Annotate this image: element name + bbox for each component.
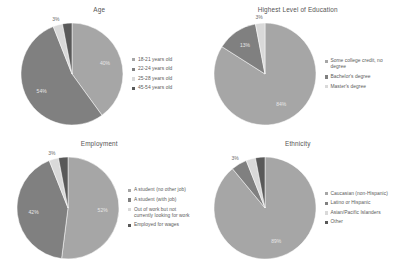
legend-item-label: Bachelor's degree bbox=[330, 74, 370, 80]
legend-swatch-icon bbox=[325, 85, 328, 88]
pie-canvas-education bbox=[213, 22, 317, 126]
chart-panel-education: Highest Level of Education 84%13%3% Some… bbox=[199, 0, 397, 134]
legend-item[interactable]: Asian/Pacific Islanders bbox=[325, 210, 394, 216]
legend-item[interactable]: 22-24 years old bbox=[132, 66, 195, 72]
chart-title-age: Age bbox=[0, 6, 199, 13]
legend-item-label: 45-54 years old bbox=[138, 85, 172, 91]
legend-item-label: Caucasian (non-Hispanic) bbox=[330, 191, 387, 197]
legend-item[interactable]: Caucasian (non-Hispanic) bbox=[325, 191, 394, 197]
chart-title-ethnicity: Ethnicity bbox=[199, 140, 397, 147]
legend-swatch-icon bbox=[325, 60, 328, 63]
legend-item[interactable]: Latino or Hispanic bbox=[325, 200, 394, 206]
legend-item-label: Latino or Hispanic bbox=[330, 200, 370, 206]
legend-swatch-icon bbox=[132, 58, 135, 61]
chart-body-age: 40%54%3% 18-21 years old 22-24 years old… bbox=[0, 16, 199, 132]
legend-age: 18-21 years old 22-24 years old 25-28 ye… bbox=[124, 57, 199, 92]
legend-item[interactable]: 18-21 years old bbox=[132, 57, 195, 63]
chart-panel-age: Age 40%54%3% 18-21 years old 22-24 years… bbox=[0, 0, 199, 134]
legend-swatch-icon bbox=[325, 75, 328, 78]
legend-item[interactable]: Other bbox=[325, 219, 394, 225]
legend-item[interactable]: A student (no other job) bbox=[128, 187, 195, 193]
pie-slice-label: 3% bbox=[52, 16, 59, 22]
legend-item-label: 22-24 years old bbox=[138, 66, 172, 72]
chart-body-education: 84%13%3% Some college credit, no degree … bbox=[199, 16, 397, 132]
legend-item-label: 25-28 years old bbox=[138, 76, 172, 82]
legend-swatch-icon bbox=[325, 202, 328, 205]
pie-chart-education: 84%13%3% bbox=[213, 22, 317, 126]
legend-item-label: 18-21 years old bbox=[138, 57, 172, 63]
chart-panel-ethnicity: Ethnicity 89%3% Caucasian (non-Hispanic)… bbox=[199, 134, 397, 268]
chart-grid: Age 40%54%3% 18-21 years old 22-24 years… bbox=[0, 0, 397, 268]
chart-title-employment: Employment bbox=[0, 140, 199, 147]
legend-swatch-icon bbox=[128, 208, 131, 211]
legend-item[interactable]: 45-54 years old bbox=[132, 85, 195, 91]
legend-item[interactable]: Out of work but not currently looking fo… bbox=[128, 207, 195, 219]
pie-canvas-age bbox=[20, 22, 124, 126]
chart-body-ethnicity: 89%3% Caucasian (non-Hispanic) Latino or… bbox=[199, 150, 397, 266]
legend-item-label: Some college credit, no degree bbox=[330, 58, 393, 70]
legend-swatch-icon bbox=[132, 68, 135, 71]
legend-item[interactable]: Employed for wages bbox=[128, 222, 195, 228]
legend-item-label: Asian/Pacific Islanders bbox=[330, 210, 380, 216]
pie-chart-employment: 52%42%3% bbox=[16, 156, 120, 260]
legend-swatch-icon bbox=[325, 211, 328, 214]
pie-canvas-employment bbox=[16, 156, 120, 260]
pie-chart-age: 40%54%3% bbox=[20, 22, 124, 126]
legend-employment: A student (no other job) A student (with… bbox=[120, 187, 199, 228]
pie-slice-label: 3% bbox=[48, 150, 55, 156]
legend-education: Some college credit, no degree Bachelor'… bbox=[317, 58, 397, 90]
legend-item[interactable]: 25-28 years old bbox=[132, 76, 195, 82]
chart-title-education: Highest Level of Education bbox=[199, 6, 397, 13]
legend-swatch-icon bbox=[128, 198, 131, 201]
legend-ethnicity: Caucasian (non-Hispanic) Latino or Hispa… bbox=[317, 191, 397, 226]
legend-item[interactable]: Bachelor's degree bbox=[325, 74, 394, 80]
legend-item-label: A student (no other job) bbox=[134, 187, 186, 193]
legend-item-label: Out of work but not currently looking fo… bbox=[134, 207, 195, 219]
legend-item[interactable]: Master's degree bbox=[325, 84, 394, 90]
legend-item-label: A student (with job) bbox=[134, 197, 177, 203]
pie-slice bbox=[62, 157, 119, 259]
chart-body-employment: 52%42%3% A student (no other job) A stud… bbox=[0, 150, 199, 266]
pie-chart-ethnicity: 89%3% bbox=[213, 156, 317, 260]
pie-slice-label: 3% bbox=[255, 14, 262, 20]
legend-item-label: Master's degree bbox=[330, 84, 366, 90]
legend-swatch-icon bbox=[128, 189, 131, 192]
legend-item-label: Other bbox=[330, 219, 342, 225]
pie-canvas-ethnicity bbox=[213, 156, 317, 260]
legend-item[interactable]: A student (with job) bbox=[128, 197, 195, 203]
legend-swatch-icon bbox=[325, 192, 328, 195]
legend-item-label: Employed for wages bbox=[134, 222, 179, 228]
legend-swatch-icon bbox=[325, 221, 328, 224]
legend-swatch-icon bbox=[132, 77, 135, 80]
legend-swatch-icon bbox=[132, 87, 135, 90]
legend-item[interactable]: Some college credit, no degree bbox=[325, 58, 394, 70]
chart-panel-employment: Employment 52%42%3% A student (no other … bbox=[0, 134, 199, 268]
legend-swatch-icon bbox=[128, 224, 131, 227]
